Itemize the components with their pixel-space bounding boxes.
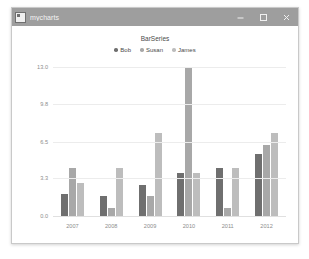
legend-swatch-icon	[140, 48, 144, 52]
bars-layer: 200720082009201020112012	[53, 68, 286, 217]
y-axis-tick-label: 13.0	[37, 64, 48, 70]
screen: mycharts	[0, 0, 309, 259]
maximize-button[interactable]	[252, 8, 275, 26]
x-axis-tick-label: 2008	[105, 223, 117, 229]
chart-title: BarSeries	[12, 35, 298, 42]
x-axis-tick-label: 2009	[144, 223, 156, 229]
gridline: 9.8	[53, 104, 286, 105]
minimize-icon	[236, 13, 245, 22]
bar[interactable]	[216, 168, 223, 217]
legend-item[interactable]: Bob	[114, 47, 131, 53]
bar-group: 2007	[53, 68, 92, 217]
bar[interactable]	[177, 173, 184, 217]
chart-legend: BobSusanJames	[12, 47, 298, 53]
bar-group: 2009	[131, 68, 170, 217]
x-axis-tick-label: 2012	[260, 223, 272, 229]
gridline: 3.3	[53, 178, 286, 179]
bar[interactable]	[69, 168, 76, 217]
bar[interactable]	[155, 133, 162, 217]
plot-area: 200720082009201020112012 0.03.36.59.813.…	[53, 68, 286, 217]
legend-label: James	[178, 47, 196, 53]
bar[interactable]	[139, 185, 146, 217]
app-icon	[15, 12, 26, 23]
bar[interactable]	[263, 145, 270, 217]
legend-label: Bob	[120, 47, 131, 53]
bar[interactable]	[147, 196, 154, 217]
y-axis-tick-label: 0.0	[40, 213, 48, 219]
plot-wrapper: 200720082009201020112012 0.03.36.59.813.…	[12, 59, 298, 243]
bar[interactable]	[61, 194, 68, 217]
x-axis-tick-label: 2011	[222, 223, 234, 229]
bar[interactable]	[77, 183, 84, 217]
bar[interactable]	[232, 168, 239, 217]
bar-group: 2011	[208, 68, 247, 217]
x-axis-tick-label: 2010	[183, 223, 195, 229]
bar[interactable]	[193, 173, 200, 217]
y-axis-tick-label: 9.8	[40, 101, 48, 107]
gridline: 13.0	[53, 67, 286, 68]
minimize-button[interactable]	[229, 8, 252, 26]
maximize-icon	[259, 13, 268, 22]
window-title: mycharts	[30, 14, 229, 21]
window-controls	[229, 8, 298, 26]
legend-swatch-icon	[114, 48, 118, 52]
window-titlebar[interactable]: mycharts	[12, 8, 298, 26]
y-axis-tick-label: 3.3	[40, 175, 48, 181]
bar-group: 2008	[92, 68, 131, 217]
legend-item[interactable]: Susan	[140, 47, 163, 53]
bar-group: 2012	[247, 68, 286, 217]
chart-canvas: BarSeries BobSusanJames 2007200820092010…	[12, 26, 298, 243]
close-button[interactable]	[275, 8, 298, 26]
x-axis-tick-label: 2007	[66, 223, 78, 229]
bar[interactable]	[185, 68, 192, 217]
bar[interactable]	[116, 168, 123, 217]
bar[interactable]	[255, 154, 262, 217]
legend-swatch-icon	[172, 48, 176, 52]
legend-label: Susan	[146, 47, 163, 53]
application-window: mycharts	[11, 7, 299, 244]
bar[interactable]	[271, 133, 278, 217]
gridline: 6.5	[53, 142, 286, 143]
bar[interactable]	[100, 196, 107, 217]
legend-item[interactable]: James	[172, 47, 196, 53]
gridline: 0.0	[53, 216, 286, 217]
y-axis-tick-label: 6.5	[40, 139, 48, 145]
bar-group: 2010	[169, 68, 208, 217]
close-icon	[282, 13, 291, 22]
